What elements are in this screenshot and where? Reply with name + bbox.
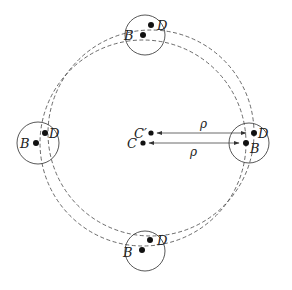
label-b-right: B [249,141,260,156]
point-d-bottom [147,237,153,243]
label-rho-bottom: ρ [189,145,197,159]
label-d-right: D [257,126,269,141]
label-d-top: D [156,18,168,33]
point-d-right [251,130,257,136]
orbit-diagram: C′ C ρ ρ B D B D D B B D [0,0,292,290]
label-d-bottom: D [156,233,168,248]
label-c: C [127,136,137,151]
point-c [140,140,145,145]
point-b-left [33,140,39,146]
label-b-bottom: B [122,245,133,260]
point-c-prime [148,130,153,135]
point-d-top [148,22,154,28]
point-b-right [243,140,249,146]
label-b-top: B [123,28,134,43]
label-b-left: B [19,136,30,151]
point-d-left [42,130,48,136]
point-b-top [140,32,146,38]
point-b-bottom [139,247,145,253]
label-d-left: D [48,126,60,141]
label-rho-top: ρ [199,117,207,131]
